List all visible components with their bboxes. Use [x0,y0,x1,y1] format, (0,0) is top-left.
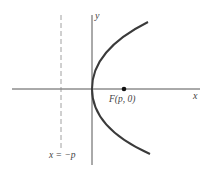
parabola-diagram: x y F(p, 0) x = −p [0,0,214,172]
x-axis-label: x [192,90,198,101]
focus-label: F(p, 0) [108,94,135,105]
focus-point [122,87,127,92]
directrix-label: x = −p [48,150,76,160]
y-axis-label: y [94,10,100,21]
parabola-curve [92,22,150,154]
